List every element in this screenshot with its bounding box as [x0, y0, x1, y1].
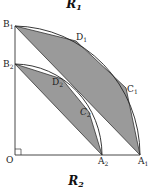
title-r1: R1 — [65, 0, 82, 12]
title-r2: R2 — [67, 174, 84, 189]
label-a1: A1 — [137, 156, 148, 167]
label-d1: D1 — [76, 32, 87, 43]
label-c1: C1 — [127, 84, 138, 95]
geometry-diagram: R1 B1 B2 D1 D2 C1 C2 O A2 A1 R2 — [0, 0, 153, 192]
label-o: O — [6, 155, 13, 165]
label-b1: B1 — [3, 19, 13, 30]
shaded-quad-1 — [15, 26, 140, 155]
label-a2: A2 — [97, 156, 109, 167]
right-angle-mark — [15, 149, 21, 155]
label-b2: B2 — [3, 59, 14, 70]
